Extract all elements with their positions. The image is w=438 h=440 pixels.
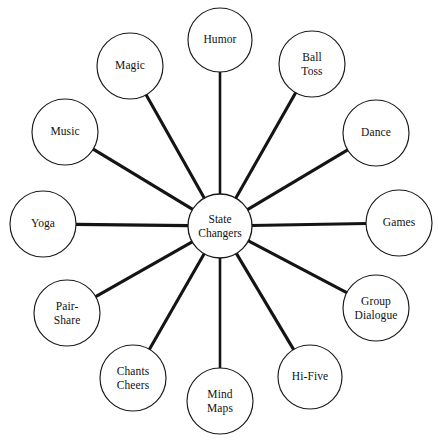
- spoke-hub-to-games: [251, 224, 367, 226]
- node-circle-dance[interactable]: [343, 100, 409, 166]
- node-circle-chants-cheers[interactable]: [100, 345, 166, 411]
- spoke-hub-to-group-dialogue: [247, 240, 347, 293]
- diagram-canvas: HumorBall TossDanceGamesGroup DialogueHi…: [0, 0, 438, 440]
- node-circle-magic[interactable]: [97, 33, 163, 99]
- node-circle-yoga[interactable]: [10, 191, 76, 257]
- node-circle-group-dialogue[interactable]: [343, 275, 409, 341]
- hub-circle-state-changers[interactable]: [188, 194, 252, 258]
- spoke-hub-to-chants-cheers: [149, 253, 205, 350]
- spoke-hub-to-pair-share: [95, 241, 193, 297]
- node-circle-mind-maps[interactable]: [187, 368, 253, 434]
- node-circle-humor[interactable]: [188, 8, 252, 72]
- spoke-hub-to-dance: [247, 149, 349, 210]
- spoke-hub-to-music: [92, 149, 193, 210]
- node-circle-music[interactable]: [32, 99, 98, 165]
- node-circles-group: [10, 8, 432, 434]
- node-circle-hi-five[interactable]: [278, 345, 342, 409]
- spoke-hub-to-yoga: [75, 224, 189, 225]
- spoke-hub-to-magic: [146, 94, 205, 199]
- spoke-hub-to-hi-five: [236, 253, 294, 351]
- node-circle-games[interactable]: [366, 190, 432, 256]
- node-circle-pair-share[interactable]: [34, 280, 100, 346]
- radial-diagram: [0, 0, 438, 440]
- spoke-hub-to-ball-toss: [235, 92, 296, 199]
- node-circle-ball-toss[interactable]: [279, 31, 345, 97]
